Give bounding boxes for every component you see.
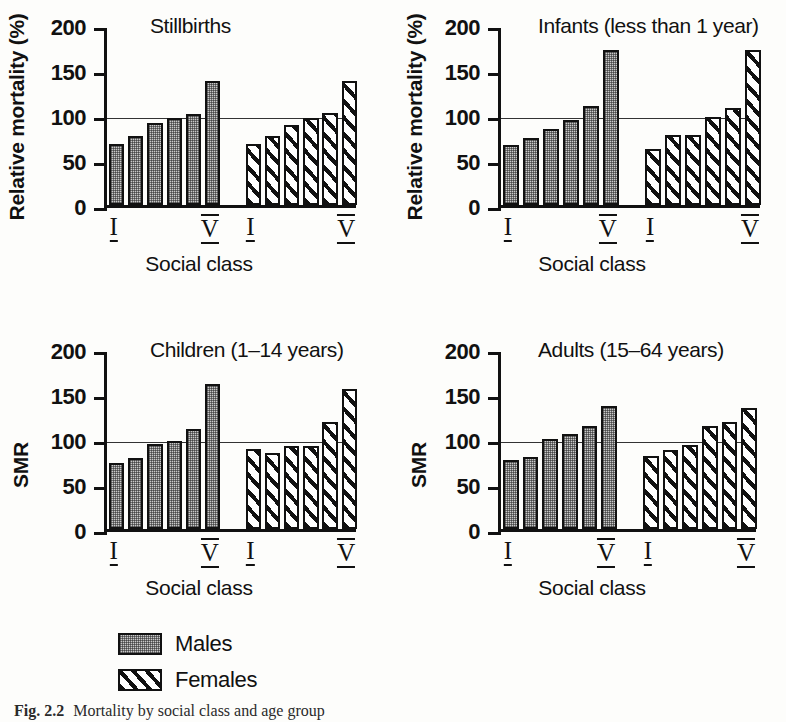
x-tick-label-v-1-infants-less-than-1-year: V (599, 214, 617, 244)
y-tick-label-100-stillbirths: 100 (51, 105, 86, 131)
y-tick-label-0-infants-less-than-1-year: 0 (468, 195, 480, 221)
y-axis-label-infants-less-than-1-year: Relative mortality (%) (400, 12, 430, 222)
bar-females-class-I-infants-less-than-1-year (645, 149, 661, 205)
y-tick-50-infants-less-than-1-year (488, 163, 501, 166)
bar-females-class-VI-infants-less-than-1-year (745, 50, 761, 205)
legend-label-females: Females (175, 667, 257, 693)
bar-males-class-I-infants-less-than-1-year (503, 145, 519, 205)
bar-females-class-II-adults-15-64-years (663, 450, 679, 529)
bar-males-class-I-adults-15-64-years (503, 460, 519, 529)
y-tick-150-stillbirths (94, 73, 107, 76)
y-tick-200-adults-15-64-years (488, 352, 501, 355)
y-tick-label-100-infants-less-than-1-year: 100 (445, 105, 480, 131)
y-tick-label-0-stillbirths: 0 (74, 195, 86, 221)
bar-males-class-I-children-1-14-years (109, 463, 124, 529)
y-axis-label-adults-15-64-years: SMR (404, 360, 434, 570)
bar-males-class-III-stillbirths (147, 123, 162, 205)
bar-females-class-VI-children-1-14-years (342, 389, 357, 529)
bar-females-class-III-infants-less-than-1-year (685, 135, 701, 205)
chart-panel-infants: Relative mortality (%)050100150200Infant… (398, 0, 786, 330)
plot-area-infants-less-than-1-year: 050100150200 (498, 28, 760, 208)
bar-females-class-V-infants-less-than-1-year (725, 108, 741, 205)
y-tick-100-children-1-14-years (94, 442, 107, 445)
plot-area-children-1-14-years: 050100150200 (104, 352, 356, 532)
x-tick-label-i-2-children-1-14-years: I (246, 538, 254, 566)
bar-males-class-IV-stillbirths (167, 118, 182, 205)
bar-females-class-III-stillbirths (284, 125, 299, 205)
bar-males-class-V-infants-less-than-1-year (583, 106, 599, 205)
x-tick-label-v-3-adults-15-64-years: V (737, 538, 755, 568)
x-tick-label-v-3-stillbirths: V (337, 214, 355, 244)
legend-item-males: Males (118, 628, 257, 659)
bar-males-class-V-stillbirths (186, 114, 201, 205)
x-tick-label-v-1-children-1-14-years: V (201, 538, 219, 568)
legend-item-females: Females (118, 664, 257, 695)
bar-males-class-IV-children-1-14-years (167, 441, 182, 529)
x-tick-label-i-0-stillbirths: I (109, 214, 117, 242)
y-tick-0-children-1-14-years (94, 532, 107, 535)
panel-title-adults-15-64-years: Adults (15–64 years) (538, 338, 724, 362)
panel-title-infants-less-than-1-year: Infants (less than 1 year) (538, 14, 759, 38)
bar-males-class-VI-adults-15-64-years (601, 406, 617, 529)
bar-males-class-IV-infants-less-than-1-year (563, 120, 579, 205)
x-tick-label-i-0-infants-less-than-1-year: I (504, 214, 512, 242)
y-tick-150-adults-15-64-years (488, 397, 501, 400)
x-axis-title-infants-less-than-1-year: Social class (398, 252, 786, 276)
plot-area-adults-15-64-years: 050100150200 (498, 352, 756, 532)
bar-males-class-III-infants-less-than-1-year (543, 129, 559, 205)
x-tick-label-i-0-adults-15-64-years: I (504, 538, 512, 566)
y-tick-label-0-children-1-14-years: 0 (74, 519, 86, 545)
bar-females-class-IV-children-1-14-years (303, 446, 318, 529)
y-tick-0-infants-less-than-1-year (488, 208, 501, 211)
y-tick-label-200-adults-15-64-years: 200 (445, 339, 480, 365)
y-tick-label-150-children-1-14-years: 150 (51, 384, 86, 410)
chart-panel-stillbirths: Relative mortality (%)050100150200Stillb… (0, 0, 398, 330)
bar-series-infants-less-than-1-year (501, 28, 760, 205)
legend-label-males: Males (175, 631, 232, 657)
y-tick-label-150-stillbirths: 150 (51, 60, 86, 86)
bar-males-class-II-children-1-14-years (128, 458, 143, 529)
bar-females-class-II-infants-less-than-1-year (665, 135, 681, 205)
y-tick-label-200-stillbirths: 200 (51, 15, 86, 41)
y-tick-200-infants-less-than-1-year (488, 28, 501, 31)
y-tick-label-50-infants-less-than-1-year: 50 (457, 150, 480, 176)
y-tick-100-stillbirths (94, 118, 107, 121)
bar-males-class-III-children-1-14-years (147, 444, 162, 529)
bar-series-adults-15-64-years (501, 352, 756, 529)
y-axis-label-stillbirths: Relative mortality (%) (2, 12, 32, 222)
y-tick-200-children-1-14-years (94, 352, 107, 355)
chart-panel-adults: SMR050100150200Adults (15–64 years)IVIVS… (398, 330, 786, 620)
legend-swatch-males-icon (118, 633, 162, 655)
y-tick-label-200-infants-less-than-1-year: 200 (445, 15, 480, 41)
bar-females-class-IV-stillbirths (303, 118, 318, 205)
legend-swatch-females-icon (118, 669, 162, 691)
y-tick-label-200-children-1-14-years: 200 (51, 339, 86, 365)
y-tick-100-adults-15-64-years (488, 442, 501, 445)
bar-males-class-II-stillbirths (128, 136, 143, 205)
y-tick-label-50-children-1-14-years: 50 (63, 474, 86, 500)
x-axis-title-children-1-14-years: Social class (0, 576, 398, 600)
figure-caption: Fig. 2.2Mortality by social class and ag… (14, 702, 325, 720)
bar-series-children-1-14-years (107, 352, 356, 529)
bar-males-class-VI-children-1-14-years (205, 384, 220, 529)
y-tick-0-adults-15-64-years (488, 532, 501, 535)
y-tick-100-infants-less-than-1-year (488, 118, 501, 121)
figure-mortality-by-social-class: Relative mortality (%)050100150200Stillb… (0, 0, 786, 722)
bar-males-class-III-adults-15-64-years (542, 439, 558, 529)
y-tick-label-100-adults-15-64-years: 100 (445, 429, 480, 455)
bar-females-class-IV-infants-less-than-1-year (705, 117, 721, 205)
y-tick-50-adults-15-64-years (488, 487, 501, 490)
panel-title-children-1-14-years: Children (1–14 years) (150, 338, 344, 362)
bar-females-class-VI-stillbirths (342, 81, 357, 205)
bar-females-class-II-stillbirths (265, 136, 280, 205)
bar-females-class-I-adults-15-64-years (643, 456, 659, 529)
figure-number: Fig. 2.2 (14, 702, 64, 719)
legend: Males Females (118, 628, 257, 700)
bar-males-class-IV-adults-15-64-years (562, 434, 578, 529)
x-tick-label-i-2-infants-less-than-1-year: I (646, 214, 654, 242)
bar-males-class-VI-stillbirths (205, 81, 220, 205)
bar-males-class-V-adults-15-64-years (582, 426, 598, 529)
bar-males-class-II-infants-less-than-1-year (523, 138, 539, 206)
bar-males-class-VI-infants-less-than-1-year (603, 50, 619, 205)
y-tick-50-children-1-14-years (94, 487, 107, 490)
